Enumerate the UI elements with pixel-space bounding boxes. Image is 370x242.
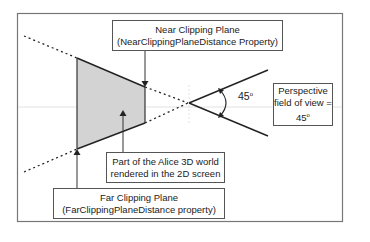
angle-value: 45 (238, 90, 250, 102)
near-clipping-plane-label: Near Clipping Plane (NearClippingPlaneDi… (112, 20, 283, 51)
fov-upper-ray (189, 70, 268, 103)
near-plane-title: Near Clipping Plane (113, 24, 282, 36)
fov-line1: Perspective (274, 85, 332, 97)
rendered-region-line2: rendered in the 2D screen (107, 168, 224, 180)
dotted-top-inner (145, 87, 188, 103)
near-plane-property: (NearClippingPlaneDistance Property) (113, 36, 282, 48)
fov-degree-symbol: o (307, 112, 310, 118)
dotted-bottom-inner (145, 103, 188, 123)
fov-angle-label: 45o (238, 90, 253, 102)
degree-symbol: o (250, 91, 253, 97)
fov-value: 45 (296, 112, 307, 123)
fov-line3: 45o (274, 109, 332, 124)
rendered-region-label: Part of the Alice 3D world rendered in t… (106, 152, 225, 183)
far-plane-property: (FarClippingPlaneDistance property) (54, 204, 224, 216)
far-plane-title: Far Clipping Plane (54, 192, 224, 204)
dotted-bottom-outer (24, 149, 77, 172)
fov-angle-arc (220, 90, 226, 116)
fov-line2: field of view = (274, 97, 332, 109)
fov-lower-ray (189, 103, 268, 136)
perspective-fov-label: Perspective field of view = 45o (273, 83, 333, 126)
rendered-region-line1: Part of the Alice 3D world (107, 156, 224, 168)
far-clipping-plane-label: Far Clipping Plane (FarClippingPlaneDist… (53, 188, 225, 219)
dotted-top-outer (24, 36, 77, 58)
